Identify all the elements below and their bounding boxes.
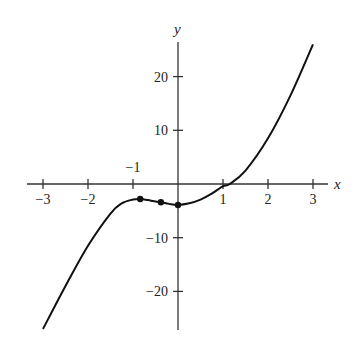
axes [27,42,328,330]
y-axis-label: y [172,21,181,37]
x-tick-label: 2 [265,192,272,207]
x-axis-label: x [333,176,341,192]
marked-points [137,196,181,208]
x-tick-label: 3 [310,192,317,207]
chart: −3−2−1123 2010−10−20 x y [0,0,362,355]
x-tick-label: 1 [220,192,227,207]
data-point [137,196,143,202]
y-tick-label: −20 [146,284,168,299]
x-tick-label: −2 [81,192,96,207]
y-tick-label: −10 [146,231,168,246]
x-tick-label: −1 [126,160,141,175]
y-tick-label: 10 [154,123,168,138]
data-point [158,199,164,205]
data-point [175,202,181,208]
y-tick-label: 20 [154,70,168,85]
x-tick-label: −3 [36,192,51,207]
